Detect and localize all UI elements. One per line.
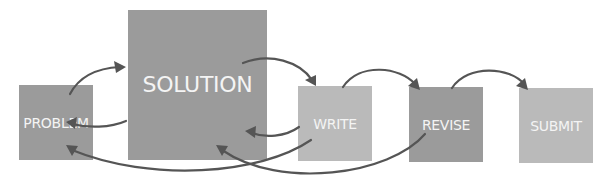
node-submit: SUBMIT bbox=[519, 88, 593, 163]
node-problem: PROBLEM bbox=[19, 85, 93, 160]
node-revise: REVISE bbox=[409, 87, 483, 162]
node-write-label: WRITE bbox=[313, 116, 357, 132]
node-problem-label: PROBLEM bbox=[23, 115, 88, 131]
node-solution: SOLUTION bbox=[128, 10, 267, 160]
node-submit-label: SUBMIT bbox=[530, 118, 582, 134]
node-revise-label: REVISE bbox=[422, 117, 470, 133]
node-write: WRITE bbox=[298, 86, 372, 161]
node-solution-label: SOLUTION bbox=[143, 72, 253, 97]
